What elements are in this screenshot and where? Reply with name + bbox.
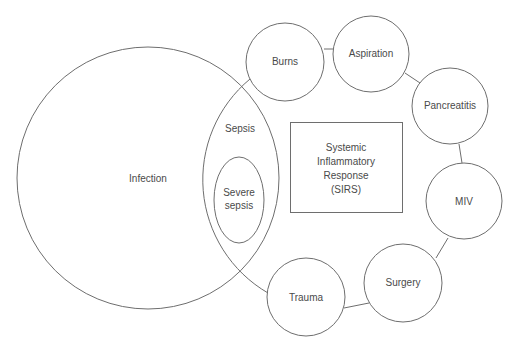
severe-sepsis-label-line2: sepsis <box>225 200 253 211</box>
burns-label: Burns <box>272 56 298 67</box>
severe-sepsis-ellipse: Severe sepsis <box>214 157 264 243</box>
aspiration-label: Aspiration <box>349 48 393 59</box>
sirs-label-line2: Inflammatory <box>317 156 375 167</box>
surgery-label: Surgery <box>385 277 420 288</box>
cause-burns: Burns <box>246 23 324 101</box>
pancreatitis-label: Pancreatitis <box>424 100 476 111</box>
sirs-label-line4: (SIRS) <box>331 184 361 195</box>
infection-circle: Infection <box>17 47 279 309</box>
sepsis-label: Sepsis <box>225 123 255 134</box>
severe-sepsis-label-line1: Severe <box>223 187 255 198</box>
miv-label: MIV <box>455 196 473 207</box>
cause-pancreatitis: Pancreatitis <box>412 68 488 144</box>
infection-label: Infection <box>129 173 167 184</box>
cause-aspiration: Aspiration <box>333 16 409 92</box>
cause-trauma: Trauma <box>267 258 345 336</box>
cause-surgery: Surgery <box>364 244 442 322</box>
cause-miv: MIV <box>426 163 502 239</box>
sirs-label-line1: Systemic <box>326 142 367 153</box>
sirs-box: Systemic Inflammatory Response (SIRS) <box>291 123 403 213</box>
trauma-label: Trauma <box>289 292 324 303</box>
sirs-label-line3: Response <box>323 170 368 181</box>
sepsis-sirs-diagram: Infection Sepsis Severe sepsis Systemic … <box>0 0 520 345</box>
